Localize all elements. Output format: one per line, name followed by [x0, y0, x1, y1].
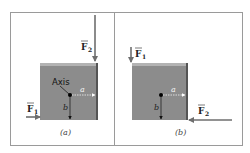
block-b-top-edge — [132, 63, 188, 66]
axis-point-b — [159, 93, 163, 97]
caption-a: (a) — [60, 128, 71, 137]
panel-b: a b F 1 F 2 (b) — [131, 47, 232, 137]
block-a-right-edge — [96, 63, 98, 120]
svg-text:1: 1 — [34, 108, 38, 115]
dimension-a-label-b: a — [171, 85, 176, 94]
block-a — [40, 63, 98, 120]
force-f2-label-b: F 2 — [198, 105, 209, 117]
block-a-top-edge — [40, 63, 98, 66]
block-b — [132, 63, 188, 120]
dimension-b-label: b — [63, 103, 68, 112]
axis-point-a — [68, 93, 72, 97]
block-b-right-edge — [186, 63, 188, 120]
dimension-b-label-b: b — [154, 103, 159, 112]
axis-label: Axis — [52, 77, 70, 87]
svg-text:F: F — [198, 106, 205, 116]
svg-text:1: 1 — [142, 53, 146, 60]
svg-text:2: 2 — [205, 110, 209, 117]
force-f1-label-b: F 1 — [135, 48, 146, 60]
svg-text:F: F — [81, 42, 88, 52]
svg-text:2: 2 — [88, 46, 92, 53]
force-f2-label: F 2 — [81, 41, 92, 53]
dimension-a-label: a — [80, 85, 85, 94]
svg-text:F: F — [135, 49, 142, 59]
svg-text:F: F — [27, 104, 34, 114]
torque-diagram: Axis a b F 2 F 1 (a) a b — [0, 0, 250, 153]
panel-a: Axis a b F 2 F 1 (a) — [26, 15, 98, 137]
caption-b: (b) — [175, 128, 186, 137]
force-f1-label: F 1 — [27, 103, 38, 115]
